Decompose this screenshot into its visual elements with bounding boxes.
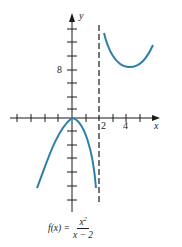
curve-right-branch (104, 33, 153, 67)
x-axis-label: x (154, 121, 158, 131)
y-tick-label-8: 8 (57, 65, 62, 75)
x-axis (10, 114, 160, 122)
x-tick-label-2: 2 (101, 121, 106, 131)
y-axis (67, 13, 77, 212)
numerator-exponent: 2 (84, 216, 87, 222)
formula-numerator: x2 (77, 216, 88, 229)
x-tick-label-4: 4 (123, 121, 128, 131)
formula-lhs: f(x) = (48, 223, 70, 233)
function-formula: f(x) = x2 x − 2 (48, 216, 93, 240)
y-axis-label: y (79, 11, 83, 21)
formula-denominator: x − 2 (73, 229, 93, 240)
y-axis-arrow-icon (69, 13, 75, 22)
formula-fraction: x2 x − 2 (73, 216, 93, 240)
curve-left-branch (37, 118, 96, 188)
